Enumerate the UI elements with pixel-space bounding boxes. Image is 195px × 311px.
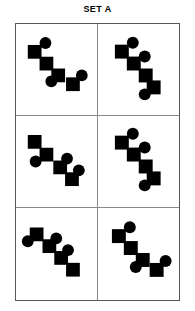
cell-2-square-2	[126, 57, 140, 71]
cell-3-figure	[16, 116, 97, 207]
cell-1-figure	[16, 24, 97, 115]
cell-3-square-3	[53, 161, 67, 175]
cell-6-square-1	[111, 229, 125, 243]
cell-5-square-3	[54, 251, 68, 265]
cell-6-square-2	[123, 241, 137, 255]
cell-2-figure	[98, 24, 180, 115]
cell-3-square-1	[28, 135, 42, 149]
cell-4-square-3	[138, 160, 152, 174]
grid-cell-5	[16, 208, 98, 300]
cell-4-square-2	[126, 148, 140, 162]
cell-6-square-3	[135, 253, 149, 267]
cell-1-square-3	[51, 69, 65, 83]
cell-3-square-2	[40, 148, 54, 162]
grid-cell-4	[98, 116, 180, 208]
cell-1-square-1	[28, 45, 42, 59]
figure-grid	[15, 23, 180, 301]
cell-4-square-4	[146, 171, 160, 185]
cell-2-square-3	[138, 69, 152, 83]
cell-5-square-2	[43, 239, 57, 253]
cell-4-figure	[98, 116, 180, 207]
cell-2-square-4	[146, 80, 160, 94]
cell-1-square-2	[40, 57, 54, 71]
cell-6-figure	[98, 208, 180, 300]
grid-cell-6	[98, 208, 180, 300]
cell-5-square-4	[66, 263, 80, 277]
cell-3-square-4	[65, 172, 79, 186]
cell-4-square-1	[114, 136, 128, 150]
grid-cell-2	[98, 24, 180, 116]
cell-6-square-4	[149, 263, 163, 277]
grid-cell-1	[16, 24, 98, 116]
page-title: SET A	[0, 4, 195, 14]
cell-5-figure	[16, 208, 97, 300]
cell-5-square-1	[30, 227, 44, 241]
cell-1-square-4	[66, 77, 80, 91]
cell-2-square-1	[114, 45, 128, 59]
grid-cell-3	[16, 116, 98, 208]
